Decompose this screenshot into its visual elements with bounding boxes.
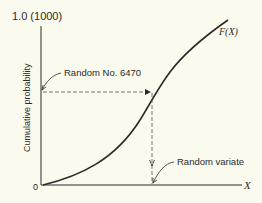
random-number-annotation: Random No. 6470 <box>64 67 141 78</box>
cdf-chart: 1.0 (1000) 0 X Cumulative probability F(… <box>0 0 262 203</box>
y-top-tick-label: 1.0 (1000) <box>12 10 62 22</box>
origin-label: 0 <box>33 182 38 192</box>
random-variate-pointer <box>153 162 174 183</box>
curve-label: F(X) <box>218 26 239 38</box>
random-variate-annotation: Random variate <box>177 156 244 167</box>
x-axis-label: X <box>243 179 252 191</box>
y-axis-label: Cumulative probability <box>22 63 32 152</box>
